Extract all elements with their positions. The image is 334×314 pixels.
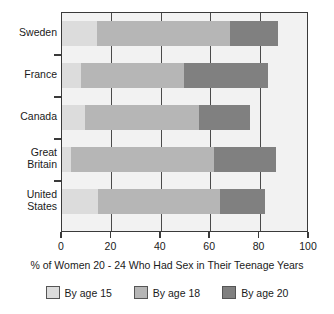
bar-segment [98,189,220,214]
y-axis-tick [54,54,61,56]
chart-legend: By age 15By age 18By age 20 [0,286,334,299]
stacked-bar-chart: SwedenFranceCanadaGreat BritainUnited St… [0,0,334,314]
bar-segment [62,105,85,130]
bar-segment [85,105,199,130]
x-axis-tick [110,232,112,238]
bar-segment [220,189,264,214]
bar-segment [214,147,276,172]
plot-inner [62,13,307,231]
bar-row [62,63,268,88]
bar-segment [81,63,185,88]
x-axis-tick [258,232,260,238]
y-category-label: Canada [20,111,57,123]
x-axis-tick-label: 80 [253,240,265,252]
plot-area [61,12,308,232]
bar-segment [230,21,278,46]
legend-label: By age 18 [153,287,200,299]
legend-label: By age 20 [241,287,288,299]
y-axis-tick [54,96,61,98]
bar-segment [62,63,81,88]
legend-swatch-icon [222,286,236,299]
bar-segment [97,21,230,46]
y-axis-tick [54,138,61,140]
legend-entry: By age 18 [134,286,200,299]
bar-segment [62,21,97,46]
legend-entry: By age 15 [46,286,112,299]
x-axis-title: % of Women 20 - 24 Who Had Sex in Their … [0,259,334,271]
x-axis-tick-label: 40 [154,240,166,252]
legend-label: By age 15 [65,287,112,299]
y-category-label: France [24,69,57,81]
legend-entry: By age 20 [222,286,288,299]
x-axis-tick [208,232,210,238]
x-axis-tick-label: 20 [105,240,117,252]
legend-swatch-icon [46,286,60,299]
legend-swatch-icon [134,286,148,299]
x-axis-tick [60,232,62,238]
bar-segment [62,189,98,214]
y-axis-tick [54,180,61,182]
bar-row [62,189,265,214]
x-axis-tick [159,232,161,238]
bar-segment [199,105,250,130]
y-category-label: United States [27,189,57,212]
bar-row [62,105,250,130]
x-axis-tick-label: 100 [299,240,317,252]
x-axis-tick [307,232,309,238]
bar-segment [184,63,268,88]
y-category-label: Sweden [19,27,57,39]
bar-row [62,21,278,46]
bar-row [62,147,276,172]
x-axis-tick-label: 0 [58,240,64,252]
y-category-label: Great Britain [27,147,57,170]
bar-segment [71,147,214,172]
bar-segment [62,147,71,172]
x-axis-tick-label: 60 [203,240,215,252]
